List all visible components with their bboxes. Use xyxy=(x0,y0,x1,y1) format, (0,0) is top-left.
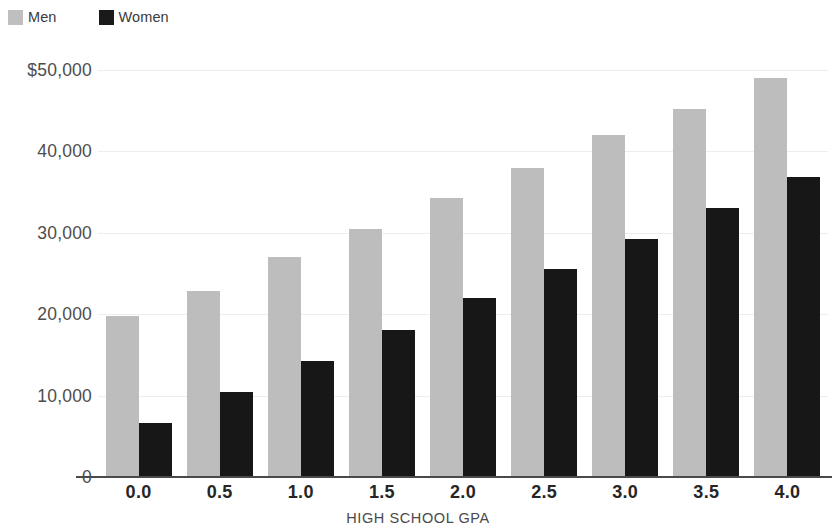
x-tick-label: 3.0 xyxy=(612,482,638,503)
y-tick-label: 30,000 xyxy=(0,222,92,243)
bar-women-2.5[interactable] xyxy=(544,269,577,477)
bar-women-3.0[interactable] xyxy=(625,239,658,477)
y-axis: $50,000 40,000 30,000 20,000 10,000 0 xyxy=(0,70,92,477)
women-swatch-icon xyxy=(99,10,114,25)
bar-men-3.5[interactable] xyxy=(673,109,706,477)
bar-men-0.0[interactable] xyxy=(106,316,139,477)
bar-women-3.5[interactable] xyxy=(706,208,739,477)
legend-label-men: Men xyxy=(28,9,57,25)
bar-men-2.0[interactable] xyxy=(430,198,463,477)
bar-chart: Men Women $50,000 40,000 30,000 20,000 1… xyxy=(0,0,836,531)
bar-women-0.0[interactable] xyxy=(139,423,172,477)
legend-item-men[interactable]: Men xyxy=(8,9,57,25)
bar-men-2.5[interactable] xyxy=(511,168,544,477)
x-axis-tick-labels: 0.00.51.01.52.02.53.03.54.0 xyxy=(98,482,828,508)
x-tick-label: 3.5 xyxy=(693,482,719,503)
plot-area xyxy=(98,70,828,477)
y-tick-label: 40,000 xyxy=(0,141,92,162)
bar-men-3.0[interactable] xyxy=(592,135,625,477)
men-swatch-icon xyxy=(8,10,23,25)
bar-men-1.0[interactable] xyxy=(268,257,301,477)
legend-label-women: Women xyxy=(119,9,169,25)
x-tick-label: 1.5 xyxy=(369,482,395,503)
bar-women-2.0[interactable] xyxy=(463,298,496,477)
x-tick-label: 2.5 xyxy=(531,482,557,503)
y-tick-label: 10,000 xyxy=(0,385,92,406)
x-tick-label: 4.0 xyxy=(774,482,800,503)
bars-layer xyxy=(98,70,828,477)
bar-women-0.5[interactable] xyxy=(220,392,253,477)
chart-legend: Men Women xyxy=(8,6,169,28)
y-tick-label: 20,000 xyxy=(0,304,92,325)
bar-women-4.0[interactable] xyxy=(787,177,820,477)
x-tick-label: 2.0 xyxy=(450,482,476,503)
bar-women-1.0[interactable] xyxy=(301,361,334,477)
bar-men-1.5[interactable] xyxy=(349,229,382,477)
x-axis-title: HIGH SCHOOL GPA xyxy=(0,510,836,526)
x-tick-label: 0.0 xyxy=(126,482,152,503)
bar-men-4.0[interactable] xyxy=(754,78,787,477)
x-tick-label: 1.0 xyxy=(288,482,314,503)
x-tick-label: 0.5 xyxy=(207,482,233,503)
bar-women-1.5[interactable] xyxy=(382,330,415,477)
y-tick-label: $50,000 xyxy=(0,60,92,81)
bar-men-0.5[interactable] xyxy=(187,291,220,477)
x-axis-line xyxy=(76,476,832,478)
legend-item-women[interactable]: Women xyxy=(99,9,169,25)
